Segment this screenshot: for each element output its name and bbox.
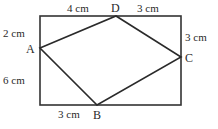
label-left-upper-2cm: 2 cm bbox=[3, 27, 25, 39]
label-left-lower-6cm: 6 cm bbox=[3, 74, 25, 86]
point-label-c: C bbox=[185, 51, 193, 65]
point-label-b: B bbox=[93, 108, 101, 122]
point-label-a: A bbox=[26, 42, 35, 56]
label-right-upper-3cm: 3 cm bbox=[185, 31, 207, 43]
geometry-diagram: 4 cm 3 cm 2 cm 6 cm 3 cm 3 cm A B C D bbox=[0, 0, 218, 129]
label-top-left-4cm: 4 cm bbox=[67, 2, 89, 14]
label-top-right-3cm: 3 cm bbox=[137, 2, 159, 14]
label-bottom-left-3cm: 3 cm bbox=[58, 108, 80, 120]
point-label-d: D bbox=[111, 1, 120, 15]
quadrilateral-abcd bbox=[40, 16, 181, 105]
outer-rectangle bbox=[40, 16, 181, 105]
